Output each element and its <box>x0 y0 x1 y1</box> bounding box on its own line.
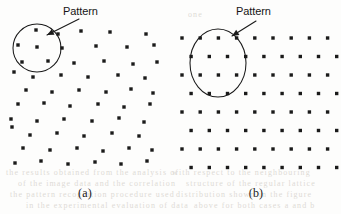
data-point <box>317 55 320 58</box>
data-point <box>39 159 42 162</box>
caption-b: (b) <box>171 186 341 201</box>
data-point <box>150 148 153 151</box>
data-point <box>104 90 107 93</box>
pattern-arrow <box>232 21 256 36</box>
arrow-head <box>232 30 239 36</box>
data-point <box>235 73 238 76</box>
data-point <box>280 55 283 58</box>
data-point <box>86 75 89 78</box>
data-point <box>244 166 247 169</box>
data-point <box>31 75 34 78</box>
data-point <box>253 110 256 113</box>
data-point <box>280 92 283 95</box>
data-point <box>262 55 265 58</box>
data-point <box>308 147 311 150</box>
data-point <box>59 73 62 76</box>
data-point <box>235 147 238 150</box>
data-point <box>48 148 51 151</box>
data-point <box>253 73 256 76</box>
data-point <box>335 92 338 95</box>
data-point <box>235 110 238 113</box>
data-point <box>335 129 338 132</box>
data-point <box>16 102 19 105</box>
data-point <box>335 166 338 169</box>
data-point <box>299 55 302 58</box>
data-point <box>129 87 132 90</box>
data-point <box>208 129 211 132</box>
data-point <box>12 70 15 73</box>
data-point <box>77 88 80 91</box>
data-point <box>101 149 104 152</box>
data-point <box>208 55 211 58</box>
data-point <box>24 88 27 91</box>
data-point <box>271 73 274 76</box>
data-point <box>119 162 122 165</box>
data-point <box>10 125 13 128</box>
data-point <box>93 160 96 163</box>
data-point <box>199 73 202 76</box>
data-point <box>262 166 265 169</box>
data-point <box>110 131 113 134</box>
data-point <box>152 43 155 46</box>
data-point <box>253 36 256 39</box>
data-point <box>68 104 71 107</box>
panel-b-plot <box>171 0 341 186</box>
data-point <box>155 60 158 63</box>
data-point <box>125 45 128 48</box>
data-point <box>280 166 283 169</box>
data-point <box>317 92 320 95</box>
data-point <box>189 92 192 95</box>
data-point <box>217 36 220 39</box>
data-point <box>308 110 311 113</box>
data-point <box>117 116 120 119</box>
data-point <box>34 28 37 31</box>
pattern-arrow <box>47 19 79 35</box>
data-point <box>66 162 69 165</box>
data-point <box>142 120 145 123</box>
data-point <box>253 147 256 150</box>
data-point <box>90 119 93 122</box>
data-point <box>62 117 65 120</box>
data-point <box>21 146 24 149</box>
data-point <box>79 29 82 32</box>
panel-a-plot <box>0 0 170 186</box>
data-point <box>326 36 329 39</box>
data-point <box>50 90 53 93</box>
data-point <box>308 36 311 39</box>
data-point <box>122 105 125 108</box>
data-point <box>28 133 31 136</box>
data-point <box>299 92 302 95</box>
data-point <box>290 110 293 113</box>
data-point <box>137 134 140 137</box>
data-point <box>145 159 148 162</box>
pattern-label-b: Pattern <box>236 5 271 17</box>
data-point <box>308 73 311 76</box>
data-point <box>326 147 329 150</box>
data-point <box>226 166 229 169</box>
data-point <box>72 61 75 64</box>
data-point <box>290 36 293 39</box>
data-point <box>55 131 58 134</box>
data-point <box>271 110 274 113</box>
data-point <box>35 45 38 48</box>
data-point <box>180 73 183 76</box>
data-point <box>96 102 99 105</box>
figure-container: the results obtained from the analysis o… <box>0 0 341 214</box>
data-point <box>35 119 38 122</box>
data-point <box>143 76 146 79</box>
data-point <box>271 36 274 39</box>
data-point <box>42 101 45 104</box>
data-point <box>317 129 320 132</box>
data-point <box>280 129 283 132</box>
data-point <box>199 147 202 150</box>
data-point <box>217 110 220 113</box>
data-point <box>244 92 247 95</box>
data-point <box>189 129 192 132</box>
data-point <box>131 62 134 65</box>
data-point <box>335 55 338 58</box>
data-point <box>94 44 97 47</box>
data-point <box>226 55 229 58</box>
data-point <box>199 110 202 113</box>
data-point <box>148 102 151 105</box>
data-point <box>127 146 130 149</box>
